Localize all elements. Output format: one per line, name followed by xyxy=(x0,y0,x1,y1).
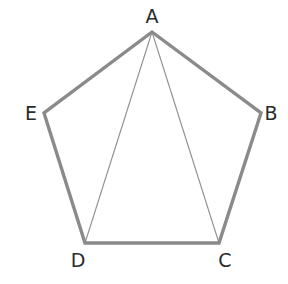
vertex-label-a: A xyxy=(146,7,159,26)
pentagon-diagram: A B C D E xyxy=(0,0,288,284)
vertex-label-b: B xyxy=(264,104,277,123)
pentagon-figure xyxy=(0,0,288,284)
pentagon-outline xyxy=(44,32,261,243)
vertex-label-c: C xyxy=(218,251,231,270)
diagonal-ad xyxy=(85,32,152,243)
vertex-label-e: E xyxy=(25,104,37,123)
diagonal-ac xyxy=(152,32,219,243)
vertex-label-d: D xyxy=(71,251,86,270)
